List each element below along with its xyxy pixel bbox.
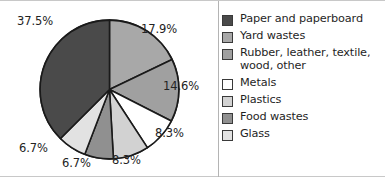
- legend-swatch-rubber-leather-textile-wood-other: [222, 49, 233, 60]
- legend-swatch-metals: [222, 79, 233, 90]
- legend-item-glass[interactable]: Glass: [222, 128, 385, 141]
- legend-swatch-plastics: [222, 96, 233, 107]
- legend-item-food-wastes[interactable]: Food wastes: [222, 111, 385, 124]
- legend-label-food-wastes: Food wastes: [240, 111, 308, 124]
- legend-label-glass: Glass: [240, 128, 270, 141]
- chart-plot-area: 17.9%14.6%8.3%8.3%6.7%6.7%37.5%: [0, 1, 218, 177]
- slice-label-food-wastes: 6.7%: [62, 156, 91, 170]
- legend-item-paper-and-paperboard[interactable]: Paper and paperboard: [222, 13, 385, 26]
- slice-label-plastics: 8.3%: [112, 153, 141, 167]
- slice-label-glass: 6.7%: [19, 141, 48, 155]
- slice-label-paper-and-paperboard: 37.5%: [17, 14, 53, 28]
- legend-swatch-paper-and-paperboard: [222, 15, 233, 26]
- legend-label-yard-wastes: Yard wastes: [240, 30, 305, 43]
- legend-item-yard-wastes[interactable]: Yard wastes: [222, 30, 385, 43]
- legend-item-rubber-leather-textile-wood-other[interactable]: Rubber, leather, textile, wood, other: [222, 47, 385, 72]
- pie-chart-figure: 17.9%14.6%8.3%8.3%6.7%6.7%37.5% Paper an…: [0, 0, 385, 177]
- legend-label-paper-and-paperboard: Paper and paperboard: [240, 13, 363, 26]
- legend-label-plastics: Plastics: [240, 94, 281, 107]
- legend-swatch-glass: [222, 130, 233, 141]
- legend-item-metals[interactable]: Metals: [222, 77, 385, 90]
- legend-item-plastics[interactable]: Plastics: [222, 94, 385, 107]
- legend-label-metals: Metals: [240, 77, 276, 90]
- chart-legend: Paper and paperboardYard wastesRubber, l…: [218, 1, 385, 177]
- slice-label-yard-wastes: 17.9%: [141, 22, 177, 36]
- legend-swatch-food-wastes: [222, 113, 233, 124]
- slice-label-rubber-leather-textile-wood-other: 14.6%: [163, 79, 199, 93]
- legend-label-rubber-leather-textile-wood-other: Rubber, leather, textile, wood, other: [240, 47, 370, 72]
- legend-swatch-yard-wastes: [222, 32, 233, 43]
- slice-label-metals: 8.3%: [155, 126, 184, 140]
- legend-item-list: Paper and paperboardYard wastesRubber, l…: [222, 13, 385, 141]
